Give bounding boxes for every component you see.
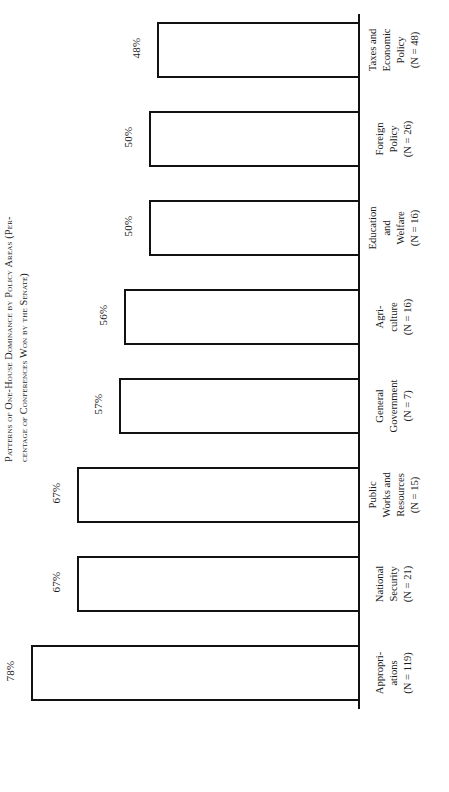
bar-foreign-policy [149,111,360,167]
category-label-line: General [373,358,387,454]
category-label-line: (N = 119) [401,625,415,721]
bar-value-label: 56% [97,300,109,330]
bar-value-label: 67% [50,567,62,597]
category-label-line: Policy [394,2,408,98]
category-label-national-security: NationalSecurity(N = 21) [373,536,415,632]
bar-education-and-welfare [149,200,360,256]
category-label-line: Security [387,536,401,632]
category-label-line: Policy [387,91,401,187]
bar-agriculture [124,289,360,345]
category-label-line: Appropri- [373,625,387,721]
category-label-line: Taxes and [366,2,380,98]
category-label-public-works-and-resources: PublicWorks andResources(N = 15) [366,447,422,543]
bar-value-label: 67% [50,478,62,508]
bar-value-label: 50% [122,122,134,152]
bar-value-label: 50% [122,211,134,241]
category-label-line: Education [366,180,380,276]
bar-chart: 48%50%50%56%57%67%67%78% Taxes andEconom… [0,0,449,792]
category-label-line: (N = 26) [401,91,415,187]
category-label-line: Works and [380,447,394,543]
category-label-line: (N = 16) [401,269,415,365]
bar-value-label: 57% [92,389,104,419]
category-label-line: (N = 7) [401,358,415,454]
bar-value-label: 48% [130,33,142,63]
category-label-line: Welfare [394,180,408,276]
category-label-line: and [380,180,394,276]
category-label-line: Agri- [373,269,387,365]
category-label-line: Public [366,447,380,543]
category-label-line: (N = 16) [408,180,422,276]
bar-value-label: 78% [4,656,16,686]
category-label-foreign-policy: ForeignPolicy(N = 26) [373,91,415,187]
category-label-education-and-welfare: EducationandWelfare(N = 16) [366,180,422,276]
bar-taxes-and-economic-policy [157,22,360,78]
category-label-line: ations [387,625,401,721]
category-label-line: (N = 21) [401,536,415,632]
category-label-line: Foreign [373,91,387,187]
bar-appropriations [31,645,360,701]
bar-public-works-and-resources [77,467,360,523]
category-label-line: Resources [394,447,408,543]
category-label-line: Government [387,358,401,454]
category-label-line: culture [387,269,401,365]
category-label-taxes-and-economic-policy: Taxes andEconomicPolicy(N = 48) [366,2,422,98]
category-label-agriculture: Agri-culture(N = 16) [373,269,415,365]
bar-national-security [77,556,360,612]
category-label-line: Economic [380,2,394,98]
bar-general-government [119,378,360,434]
category-label-line: (N = 48) [408,2,422,98]
category-label-line: National [373,536,387,632]
category-label-appropriations: Appropri-ations(N = 119) [373,625,415,721]
category-label-general-government: GeneralGovernment(N = 7) [373,358,415,454]
category-label-line: (N = 15) [408,447,422,543]
